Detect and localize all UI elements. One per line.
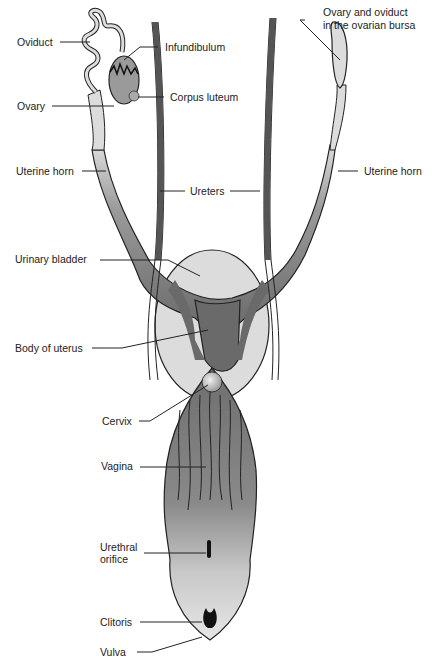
label-oviduct: Oviduct bbox=[17, 36, 53, 48]
label-body-of-uterus: Body of uterus bbox=[15, 342, 83, 354]
left-ovary-oviduct bbox=[84, 10, 139, 104]
vagina bbox=[164, 368, 256, 640]
label-infundibulum: Infundibulum bbox=[165, 41, 225, 53]
label-vagina: Vagina bbox=[101, 460, 133, 472]
label-clitoris: Clitoris bbox=[100, 616, 132, 628]
label-uterine-horn-right: Uterine horn bbox=[364, 165, 422, 177]
label-ureters: Ureters bbox=[190, 185, 224, 197]
label-urethral-orifice-line1: Urethral bbox=[100, 541, 137, 553]
label-vulva: Vulva bbox=[100, 646, 126, 658]
label-cervix: Cervix bbox=[102, 415, 132, 427]
label-urinary-bladder: Urinary bladder bbox=[15, 253, 87, 265]
label-corpus-luteum: Corpus luteum bbox=[170, 91, 238, 103]
label-uterine-horn-left: Uterine horn bbox=[16, 165, 74, 177]
label-urethral-orifice-line2: orifice bbox=[100, 553, 128, 565]
ureter-left-top bbox=[152, 22, 164, 260]
label-ovarian-bursa-line2: in the ovarian bursa bbox=[323, 19, 415, 31]
label-ovarian-bursa-line1: Ovary and oviduct bbox=[323, 6, 408, 18]
label-ovary: Ovary bbox=[17, 100, 45, 112]
